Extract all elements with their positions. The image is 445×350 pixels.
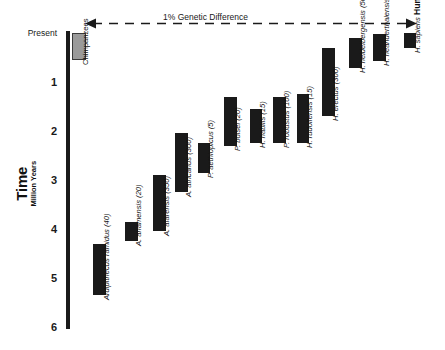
genetic-difference-annotation: 1% Genetic Difference [85, 16, 417, 34]
bar-label-chimpanzees: Chimpanzees [82, 19, 90, 65]
bar-label-h-heidelbergensis: H. heidelbergensis (50) [359, 0, 367, 73]
bar-label-h-neanderthalensis: H. neanderthalensis (400) [383, 0, 391, 66]
double-arrow-icon [85, 16, 417, 34]
bar-label-p-robustus: P. robustus (100) [283, 91, 291, 148]
y-axis-tick-wrap: 1 [0, 77, 62, 87]
y-axis-title-sub: Million Years [30, 154, 38, 214]
y-axis-tick-present: Present [0, 28, 62, 38]
y-axis-tick-4: 4 [0, 224, 62, 234]
bar-label-ardipithecus-ramidus: Ardipithecus ramidus (40) [103, 214, 111, 301]
bar-label-p-aethiopicus: P. aethiopicus (5) [207, 120, 215, 178]
hominin-timeline-chart: Present123456 Time Million Years 1% Gene… [0, 0, 445, 350]
y-axis-tick-2: 2 [0, 126, 62, 136]
genetic-difference-label: 1% Genetic Difference [163, 12, 248, 22]
y-axis-line [66, 31, 70, 329]
y-axis-tick-wrap: 2 [0, 126, 62, 136]
bar-label-h-erectus: H. erectus (300) [332, 67, 340, 121]
y-axis-title-main: Time [14, 154, 29, 214]
y-axis-title: Time Million Years [14, 154, 38, 214]
y-axis-tick-wrap: 6 [0, 322, 62, 332]
bar-label-a-africanus: A. africanus (300) [185, 137, 193, 197]
y-axis-tick-6: 6 [0, 322, 62, 332]
bar-label-p-boisei: P. boisei (20) [234, 107, 242, 151]
bar-label-h-habilis: H. habilis (15) [259, 101, 267, 148]
y-axis-tick-5: 5 [0, 273, 62, 283]
y-axis-tick-wrap: 5 [0, 273, 62, 283]
bar-label-a-anamensis: A. anamensis (20) [135, 185, 143, 247]
bar-label-h-sapiens: H. sapiens Humans [413, 0, 422, 53]
bar-label-a-afarensis: A. afarensis (350) [163, 177, 171, 237]
y-axis-tick-wrap: Present [0, 28, 62, 38]
y-axis-tick-1: 1 [0, 77, 62, 87]
bar-label-h-rudolfensis: H. rudolfensis (15) [306, 86, 314, 148]
y-axis-tick-wrap: 4 [0, 224, 62, 234]
